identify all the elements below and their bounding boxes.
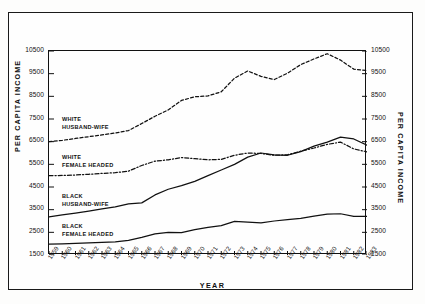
y-tick-label-left-10500: 10500 xyxy=(12,47,44,54)
y-tick-label-left-7500: 7500 xyxy=(12,115,44,122)
y-tick-label-left-4500: 4500 xyxy=(12,183,44,190)
y-tick-label-left-1500: 1500 xyxy=(12,251,44,258)
y-tick-label-left-6500: 6500 xyxy=(12,137,44,144)
y-tick-label-left-5500: 5500 xyxy=(12,160,44,167)
x-axis-title: YEAR xyxy=(0,281,425,290)
y-tick-label-left-2500: 2500 xyxy=(12,228,44,235)
series-line-1 xyxy=(49,142,367,176)
y-tick-label-right-3500: 3500 xyxy=(371,205,386,212)
y-tick-label-right-6500: 6500 xyxy=(371,137,386,144)
y-tick-label-right-10500: 10500 xyxy=(371,47,390,54)
plot-area xyxy=(48,50,366,254)
series-line-0 xyxy=(49,54,367,142)
y-axis-title-right: PER CAPITA INCOME xyxy=(397,112,404,204)
y-tick-label-left-3500: 3500 xyxy=(12,205,44,212)
chart-figure: PER CAPITA INCOME PER CAPITA INCOME YEAR… xyxy=(0,0,425,304)
series-line-3 xyxy=(49,214,367,244)
plot-svg xyxy=(49,51,367,255)
y-tick-label-right-5500: 5500 xyxy=(371,160,386,167)
y-tick-label-right-7500: 7500 xyxy=(371,115,386,122)
y-tick-label-right-2500: 2500 xyxy=(371,228,386,235)
y-tick-label-left-9500: 9500 xyxy=(12,69,44,76)
y-tick-label-right-9500: 9500 xyxy=(371,69,386,76)
y-tick-label-right-8500: 8500 xyxy=(371,92,386,99)
y-tick-label-left-8500: 8500 xyxy=(12,92,44,99)
y-tick-label-right-4500: 4500 xyxy=(371,183,386,190)
series-line-2 xyxy=(49,137,367,217)
